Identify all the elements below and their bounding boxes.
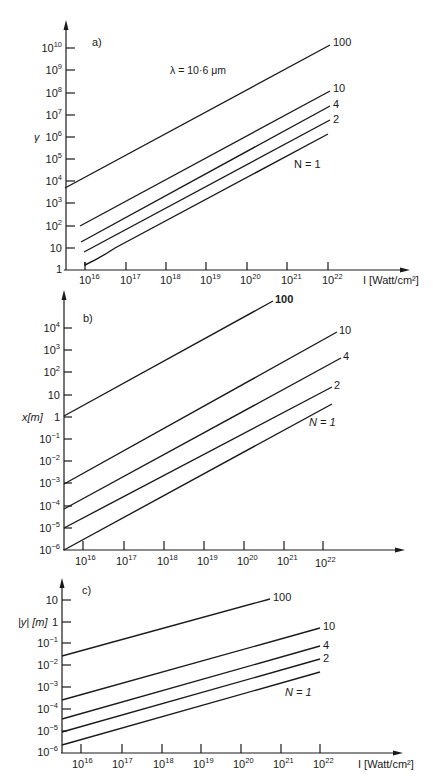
svg-text:1019: 1019 xyxy=(197,553,218,567)
panel-a-x-axis-label: I [Watt/cm²] xyxy=(363,274,419,286)
panel-c-curves xyxy=(62,599,320,745)
svg-text:1022: 1022 xyxy=(315,555,336,569)
svg-text:1016: 1016 xyxy=(79,272,100,286)
svg-text:10−2: 10−2 xyxy=(37,657,58,671)
panel-a-curve-n1 xyxy=(85,134,328,265)
svg-text:10−3: 10−3 xyxy=(37,679,58,693)
svg-text:1021: 1021 xyxy=(277,553,298,567)
panel-c-x-axis-arrow-icon xyxy=(393,751,403,756)
svg-text:109: 109 xyxy=(46,62,62,76)
svg-text:10−3: 10−3 xyxy=(39,475,60,489)
svg-text:1018: 1018 xyxy=(157,553,178,567)
svg-text:1021: 1021 xyxy=(273,756,294,770)
svg-text:103: 103 xyxy=(44,342,60,356)
panel-a-curve-n2 xyxy=(84,120,330,252)
svg-text:1: 1 xyxy=(54,411,60,423)
panel-b-curve-n2 xyxy=(64,387,332,528)
panel-c-curve-n100 xyxy=(62,599,270,656)
panel-c-x-axis-label: I [Watt/cm²] xyxy=(358,758,414,770)
svg-text:10: 10 xyxy=(333,82,345,94)
panel-b-x-ticks xyxy=(83,541,323,550)
figure-canvas: 1010 109 108 107 106 105 104 103 102 10 … xyxy=(0,0,433,782)
panel-b-curve-n1 xyxy=(64,404,332,550)
svg-text:1: 1 xyxy=(56,263,62,275)
svg-text:10−6: 10−6 xyxy=(39,542,60,556)
panel-a-curves xyxy=(65,45,330,266)
svg-text:10−6: 10−6 xyxy=(37,744,58,758)
svg-text:102: 102 xyxy=(44,364,60,378)
svg-text:1020: 1020 xyxy=(233,756,254,770)
panel-a-x-tick-labels: 1016 1017 1018 1019 1020 1021 1022 xyxy=(79,272,343,286)
svg-text:1016: 1016 xyxy=(75,553,96,567)
svg-text:N = 1: N = 1 xyxy=(309,416,336,428)
svg-text:106: 106 xyxy=(46,129,62,143)
panel-c-y-axis-arrow-icon xyxy=(60,578,65,588)
svg-text:2: 2 xyxy=(323,652,329,664)
panel-b: 104 103 102 10 1 10−1 10−2 10−3 10−4 10−… xyxy=(21,290,405,569)
svg-text:103: 103 xyxy=(46,195,62,209)
svg-text:10−5: 10−5 xyxy=(37,723,58,737)
svg-text:102: 102 xyxy=(46,218,62,232)
svg-text:10−4: 10−4 xyxy=(37,701,58,715)
svg-text:1020: 1020 xyxy=(237,553,258,567)
svg-text:2: 2 xyxy=(333,113,339,125)
svg-text:1010: 1010 xyxy=(41,40,62,54)
svg-text:1021: 1021 xyxy=(281,272,302,286)
panel-a-y-tick-labels: 1010 109 108 107 106 105 104 103 102 10 … xyxy=(41,40,62,275)
panel-a: 1010 109 108 107 106 105 104 103 102 10 … xyxy=(34,20,419,286)
panel-c-curve-n10 xyxy=(62,628,320,700)
svg-text:1017: 1017 xyxy=(116,553,137,567)
panel-b-curve-n10 xyxy=(64,332,337,484)
panel-b-curves xyxy=(64,301,341,550)
panel-c-curve-n2 xyxy=(62,659,320,732)
panel-a-y-axis-label: γ xyxy=(34,131,41,143)
svg-text:104: 104 xyxy=(44,320,60,334)
panel-c-x-ticks xyxy=(81,744,320,753)
panel-c-label: c) xyxy=(82,584,91,596)
svg-text:100: 100 xyxy=(275,293,293,305)
svg-text:10−1: 10−1 xyxy=(37,635,58,649)
svg-text:10: 10 xyxy=(323,620,335,632)
svg-text:108: 108 xyxy=(46,85,62,99)
panel-b-curve-n4 xyxy=(64,358,341,509)
panel-b-y-ticks xyxy=(64,328,72,528)
svg-text:10: 10 xyxy=(339,324,351,336)
svg-text:4: 4 xyxy=(323,639,329,651)
svg-text:1016: 1016 xyxy=(72,756,93,770)
panel-a-label: a) xyxy=(92,36,102,48)
svg-text:100: 100 xyxy=(273,591,291,603)
svg-text:1022: 1022 xyxy=(313,756,334,770)
panel-a-x-ticks xyxy=(85,262,328,270)
svg-text:1017: 1017 xyxy=(120,272,141,286)
panel-a-curve-n4 xyxy=(81,106,330,242)
svg-text:1: 1 xyxy=(52,616,58,628)
svg-text:1017: 1017 xyxy=(112,756,133,770)
svg-text:10: 10 xyxy=(46,594,58,606)
svg-text:1018: 1018 xyxy=(160,272,181,286)
svg-text:107: 107 xyxy=(46,107,62,121)
panel-a-y-ticks xyxy=(66,48,75,248)
svg-text:10−2: 10−2 xyxy=(39,453,60,467)
svg-text:1018: 1018 xyxy=(153,756,174,770)
svg-text:10−5: 10−5 xyxy=(39,520,60,534)
panel-c-y-axis-label: |y| [m] xyxy=(18,616,48,628)
panel-b-y-axis-arrow-icon xyxy=(62,290,67,300)
svg-text:4: 4 xyxy=(333,98,339,110)
svg-text:1019: 1019 xyxy=(193,756,214,770)
svg-text:10−4: 10−4 xyxy=(39,498,60,512)
wavelength-annotation: λ = 10·6 μm xyxy=(170,64,226,76)
panel-b-label: b) xyxy=(83,312,93,324)
svg-text:1020: 1020 xyxy=(240,272,261,286)
panel-b-x-tick-labels: 1016 1017 1018 1019 1020 1021 1022 xyxy=(75,553,336,569)
panel-b-y-tick-labels: 104 103 102 10 1 10−1 10−2 10−3 10−4 10−… xyxy=(39,320,60,556)
panel-c: 10 1 10−1 10−2 10−3 10−4 10−5 10−6 |y| [… xyxy=(18,578,414,770)
panel-a-curve-n10 xyxy=(80,91,330,226)
panel-c-x-tick-labels: 1016 1017 1018 1019 1020 1021 1022 xyxy=(72,756,334,770)
svg-text:10: 10 xyxy=(50,242,62,254)
svg-text:105: 105 xyxy=(46,151,62,165)
svg-text:N = 1: N = 1 xyxy=(285,686,312,698)
svg-text:10−1: 10−1 xyxy=(39,431,60,445)
svg-text:1019: 1019 xyxy=(200,272,221,286)
panel-b-curve-n100 xyxy=(64,301,273,416)
panel-a-x-axis-arrow-icon xyxy=(400,268,410,273)
